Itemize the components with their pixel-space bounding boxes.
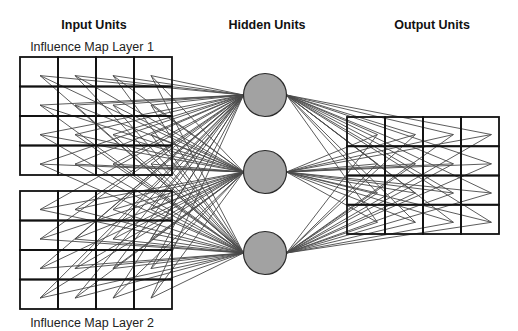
input-grid-layer-2-cell — [20, 250, 58, 280]
hidden-unit-3 — [244, 232, 287, 275]
connection-hidden2-output-13 — [287, 222, 416, 253]
connection-input2-12-hidden2 — [40, 253, 244, 298]
input-grid-layer-2-cell — [20, 280, 58, 310]
input-grid-layer-1-cell — [20, 57, 58, 87]
connection-hidden2-output-1 — [287, 135, 416, 253]
hidden-unit-2 — [244, 151, 287, 194]
connection-input2-15-hidden2 — [151, 253, 244, 298]
connection-hidden2-output-10 — [287, 193, 454, 253]
input-grid-layer-1-cell — [58, 57, 96, 87]
input-grid-layer-1 — [20, 57, 172, 175]
output-grid-cell — [461, 117, 499, 146]
connection-hidden0-output-13 — [287, 95, 416, 222]
input-grid-layer-1-cell — [20, 87, 58, 117]
output-grid-cell — [385, 205, 423, 234]
hidden-units-title: Hidden Units — [228, 18, 305, 32]
hidden-nodes-layer — [244, 74, 287, 275]
connection-input1-3-hidden0 — [151, 76, 244, 95]
connection-input2-14-hidden2 — [113, 253, 244, 298]
connection-hidden2-output-9 — [287, 193, 416, 253]
input-units-title: Input Units — [61, 18, 126, 32]
input-grid-layer-2-cell — [58, 221, 96, 251]
input-grid-layer-1-cell — [20, 116, 58, 146]
connection-input1-2-hidden0 — [113, 76, 244, 95]
input-grid-layer-2-cell — [20, 191, 58, 221]
connection-hidden0-output-1 — [287, 95, 416, 135]
connection-hidden2-output-14 — [287, 222, 454, 253]
input-grid-layer-1-cell — [134, 57, 172, 87]
connection-input2-15-hidden0 — [151, 95, 244, 298]
connection-input2-11-hidden2 — [151, 253, 244, 269]
connection-hidden2-output-8 — [287, 193, 378, 253]
connection-input1-0-hidden0 — [40, 76, 244, 95]
connection-hidden1-output-14 — [287, 172, 454, 222]
connection-hidden1-output-13 — [287, 172, 416, 222]
neural-network-diagram: Input Units Hidden Units Output Units In… — [0, 0, 518, 331]
input-grid-layer-1-cell — [58, 146, 96, 176]
output-units-title: Output Units — [394, 18, 470, 32]
connection-hidden0-output-14 — [287, 95, 454, 222]
influence-map-layer-1-label: Influence Map Layer 1 — [30, 40, 154, 54]
hidden-unit-1 — [244, 74, 287, 117]
connection-hidden2-output-0 — [287, 135, 378, 253]
influence-map-layer-2-label: Influence Map Layer 2 — [30, 316, 154, 330]
output-grid-cell — [461, 146, 499, 175]
connection-hidden0-output-2 — [287, 95, 454, 135]
